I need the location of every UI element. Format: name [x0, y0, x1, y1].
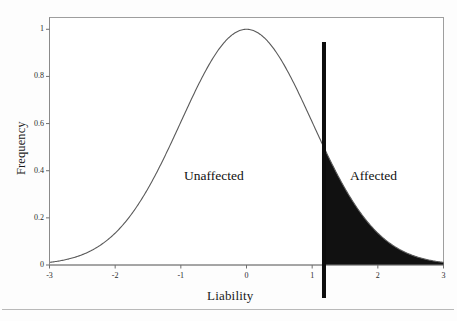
x-tick-label: -3 — [38, 271, 62, 280]
y-tick-label: 0.2 — [20, 213, 44, 222]
x-tick-label: 3 — [432, 271, 456, 280]
y-tick-label: 1 — [20, 24, 44, 33]
y-tick-label: 0 — [20, 260, 44, 269]
liability-threshold-chart: Frequency Liability Unaffected Affected … — [0, 0, 457, 321]
y-axis-ticks — [46, 29, 50, 265]
x-axis-title: Liability — [207, 288, 254, 304]
y-tick-label: 0.8 — [20, 71, 44, 80]
y-tick-label: 0.6 — [20, 119, 44, 128]
x-tick-label: 1 — [300, 271, 324, 280]
y-tick-label: 0.4 — [20, 166, 44, 175]
x-tick-label: -1 — [169, 271, 193, 280]
x-axis-ticks — [50, 265, 444, 269]
plot-frame — [50, 18, 444, 266]
x-tick-label: 2 — [366, 271, 390, 280]
x-tick-label: -2 — [103, 271, 127, 280]
x-tick-label: 0 — [235, 271, 259, 280]
unaffected-region-label: Unaffected — [184, 168, 244, 184]
page-rule-line — [2, 309, 454, 310]
affected-region-label: Affected — [350, 168, 397, 184]
